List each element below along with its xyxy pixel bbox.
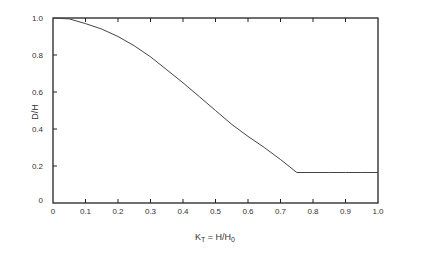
y-tick-label: 0 [39, 196, 44, 205]
x-tick-label: 0.5 [210, 207, 222, 216]
x-axis-ticks: 00.10.20.30.40.50.60.70.80.91.0 [51, 18, 384, 216]
line-chart: 00.10.20.30.40.50.60.70.80.91.0 00.20.40… [0, 0, 440, 259]
y-tick-label: 0.2 [32, 162, 44, 171]
x-tick-label: 0.6 [242, 207, 254, 216]
x-tick-label: 0.9 [340, 207, 352, 216]
x-tick-label: 0.4 [177, 207, 189, 216]
series-line [53, 18, 378, 173]
x-tick-label: 0.3 [145, 207, 157, 216]
y-tick-label: 0.8 [32, 51, 44, 60]
x-tick-label: 1.0 [372, 207, 384, 216]
data-series [53, 18, 378, 173]
x-tick-label: 0.8 [307, 207, 319, 216]
y-tick-label: 1.0 [32, 14, 44, 23]
x-axis-title: KT = H/H0 [195, 232, 235, 243]
y-tick-label: 0.4 [32, 125, 44, 134]
x-tick-label: 0.7 [275, 207, 287, 216]
y-axis-title: D/H [30, 104, 40, 120]
x-tick-label: 0.1 [80, 207, 92, 216]
y-tick-label: 0.6 [32, 88, 44, 97]
x-tick-label: 0 [51, 207, 56, 216]
x-tick-label: 0.2 [112, 207, 124, 216]
